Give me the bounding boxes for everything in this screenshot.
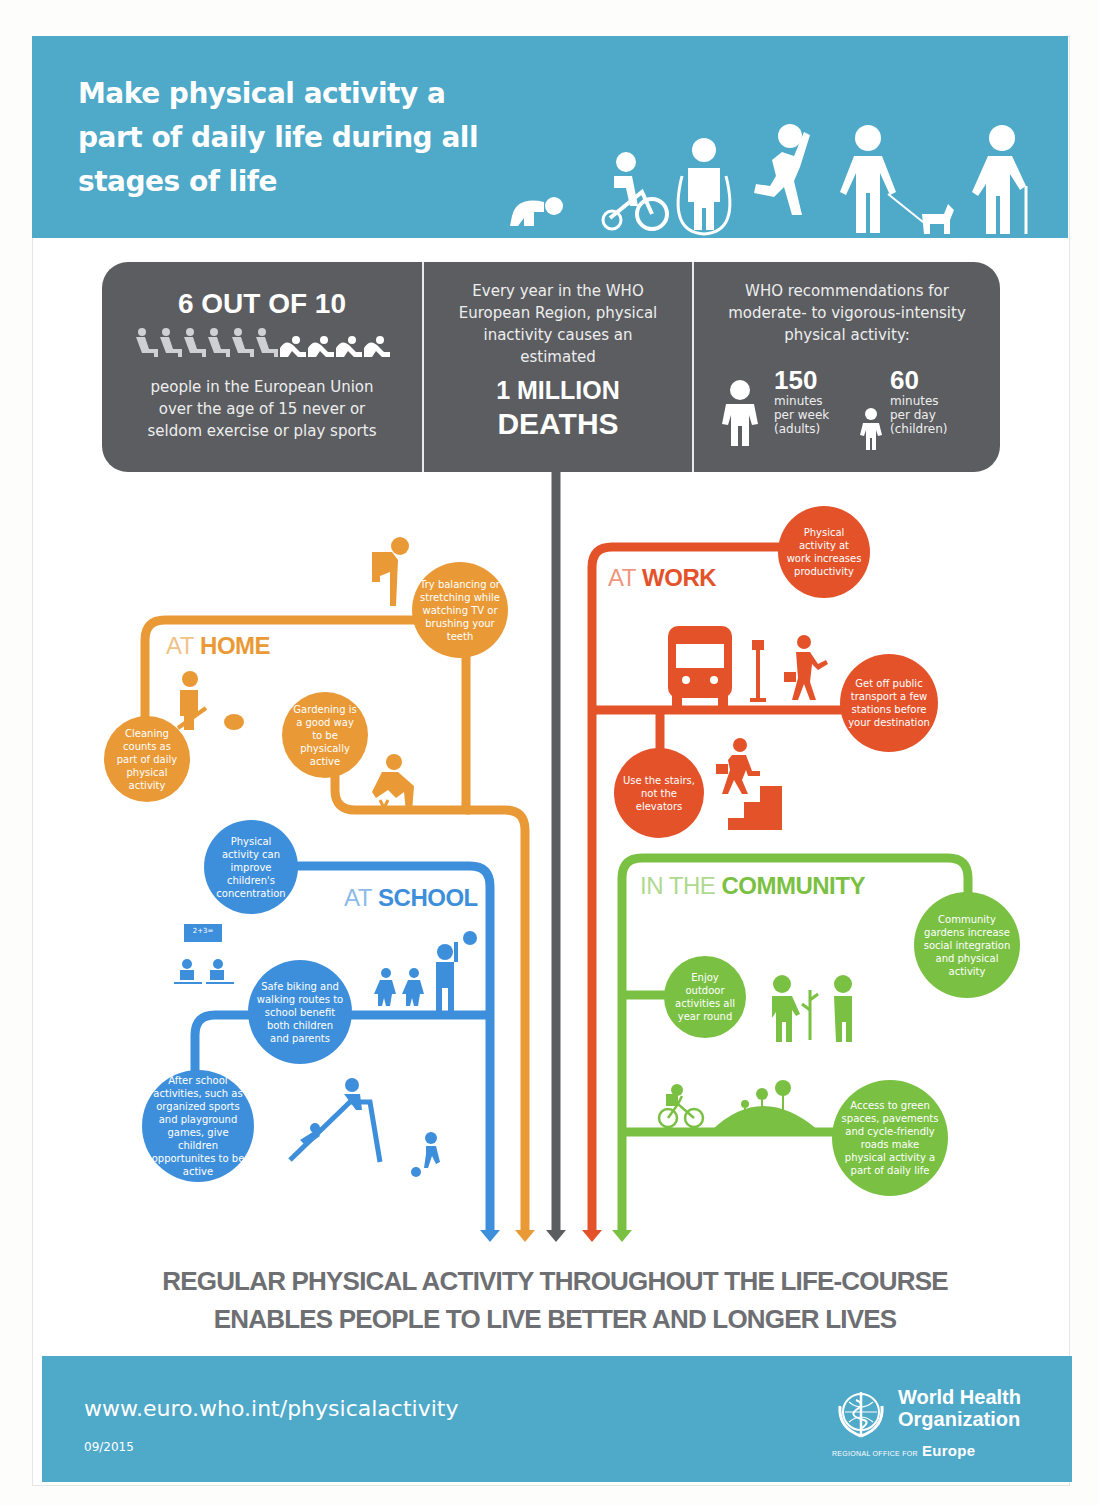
arrow-down-icon bbox=[546, 1230, 566, 1242]
who-logo: World Health Organization REGIONAL OFFIC… bbox=[832, 1386, 1032, 1466]
school-bubble-after-school: After school activities, such as organiz… bbox=[142, 1070, 254, 1182]
who-regional-office: REGIONAL OFFICE FOREurope bbox=[832, 1442, 975, 1459]
slogan-line-1: REGULAR PHYSICAL ACTIVITY THROUGHOUT THE… bbox=[60, 1262, 1050, 1300]
footer-banner: www.euro.who.int/physicalactivity 09/201… bbox=[42, 1356, 1072, 1482]
arrow-down-icon bbox=[612, 1230, 632, 1242]
stairs-climbing-icon bbox=[716, 738, 782, 830]
playground-slide-icon bbox=[290, 1078, 380, 1162]
work-bubble-stairs: Use the stairs, not the elevators bbox=[614, 748, 704, 838]
community-bubble-green-spaces: Access to green spaces, pavements and cy… bbox=[832, 1080, 948, 1196]
section-title-work: AT WORK bbox=[608, 564, 716, 592]
region-name: Europe bbox=[922, 1442, 975, 1459]
community-bubble-outdoor: Enjoy outdoor activities all year round bbox=[664, 956, 746, 1038]
website-link[interactable]: www.euro.who.int/physicalactivity bbox=[84, 1396, 458, 1421]
blackboard-text: 2+3= bbox=[186, 927, 220, 935]
who-name: World Health Organization bbox=[898, 1386, 1021, 1430]
who-name-line1: World Health bbox=[898, 1386, 1021, 1408]
who-name-line2: Organization bbox=[898, 1408, 1021, 1430]
work-bubble-public-transport: Get off public transport a few stations … bbox=[840, 654, 938, 752]
commuter-walking-icon bbox=[784, 635, 828, 700]
school-bubble-safe-routes: Safe biking and walking routes to school… bbox=[248, 960, 352, 1064]
school-bubble-concentration: Physical activity can improve children's… bbox=[204, 820, 298, 914]
gardening-person-icon bbox=[372, 754, 414, 812]
home-bubble-balancing: Try balancing or stretching while watchi… bbox=[412, 562, 508, 658]
section-title-community: IN THE COMMUNITY bbox=[640, 872, 865, 900]
region-prefix: REGIONAL OFFICE FOR bbox=[832, 1450, 918, 1457]
tree-planting-people-icon bbox=[772, 975, 852, 1042]
section-title-school: AT SCHOOL bbox=[344, 884, 478, 912]
bus-stop-icon bbox=[750, 640, 766, 702]
walking-to-school-icon bbox=[374, 931, 477, 1014]
home-bubble-cleaning: Cleaning counts as part of daily physica… bbox=[104, 716, 190, 802]
publication-date: 09/2015 bbox=[84, 1440, 134, 1454]
slogan-line-2: ENABLES PEOPLE TO LIVE BETTER AND LONGER… bbox=[60, 1300, 1050, 1338]
bus-icon bbox=[668, 620, 732, 706]
home-bubble-gardening: Gardening is a good way to be physically… bbox=[282, 692, 368, 778]
stretching-person-icon bbox=[372, 537, 409, 606]
arrow-down-icon bbox=[515, 1230, 535, 1242]
community-bubble-gardens: Community gardens increase social integr… bbox=[914, 892, 1020, 998]
section-title-home: AT HOME bbox=[166, 632, 270, 660]
child-ball-icon bbox=[411, 1132, 440, 1177]
slogan: REGULAR PHYSICAL ACTIVITY THROUGHOUT THE… bbox=[60, 1262, 1050, 1338]
cyclist-icon bbox=[659, 1084, 703, 1127]
who-emblem-icon bbox=[832, 1386, 890, 1442]
infographic-page: Make physical activity a part of daily l… bbox=[0, 0, 1099, 1505]
raised-hand-students-icon bbox=[174, 959, 234, 984]
arrow-down-icon bbox=[582, 1230, 602, 1242]
green-hill-trees-icon bbox=[712, 1080, 818, 1130]
work-bubble-productivity: Physical activity at work increases prod… bbox=[778, 506, 870, 598]
arrow-down-icon bbox=[480, 1230, 500, 1242]
vacuum-cleaning-icon bbox=[178, 671, 244, 730]
